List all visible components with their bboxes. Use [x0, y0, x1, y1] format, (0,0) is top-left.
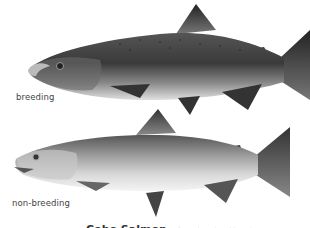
breeding-label: breeding	[16, 92, 55, 102]
dorsal-fin	[136, 109, 176, 135]
species-caption: Coho Salmon Oncorhynchus kisutch	[86, 218, 254, 228]
tail-fin	[254, 127, 290, 197]
eye	[57, 63, 64, 70]
non-breeding-label: non-breeding	[12, 198, 70, 208]
eye	[33, 154, 39, 160]
common-name: Coho Salmon	[86, 223, 167, 228]
dorsal-fin	[176, 4, 216, 34]
pelvic-fin	[146, 191, 164, 217]
scientific-name: Oncorhynchus kisutch	[176, 227, 254, 228]
head	[30, 57, 102, 90]
tail-fin	[280, 30, 310, 100]
